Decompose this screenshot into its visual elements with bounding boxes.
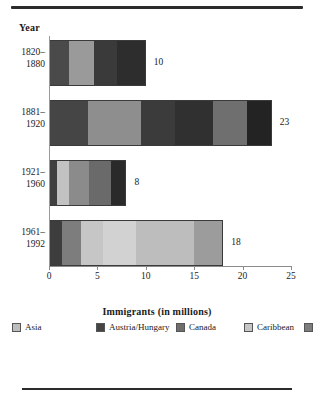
legend-item: Caribbean xyxy=(244,320,304,334)
bar-category-label: 1881–1920 xyxy=(4,106,45,130)
x-tick-label: 0 xyxy=(37,271,61,281)
stacked-bar xyxy=(49,220,223,266)
bar-segment xyxy=(50,221,62,265)
bar-total-label: 10 xyxy=(154,57,164,67)
bar-segment xyxy=(62,221,80,265)
bar-segment xyxy=(111,161,125,205)
x-tick-label: 25 xyxy=(279,271,303,281)
bar-category-label: 1820–1880 xyxy=(4,46,45,70)
bar-segment xyxy=(89,161,112,205)
legend-item: Asia xyxy=(12,320,96,334)
legend-item: Central/S. America xyxy=(304,320,314,334)
bar-segment xyxy=(69,161,89,205)
bar-total-label: 8 xyxy=(134,177,139,187)
x-tick-label: 5 xyxy=(85,271,109,281)
top-rule xyxy=(11,6,303,9)
bar-segment xyxy=(88,101,141,145)
legend-swatch-icon xyxy=(176,323,185,332)
bar-segment xyxy=(213,101,247,145)
legend-item: Canada xyxy=(176,320,244,334)
bar-segment xyxy=(57,161,69,205)
stacked-bar xyxy=(49,40,146,86)
bar-segment xyxy=(117,41,144,85)
x-tick xyxy=(194,266,195,270)
chart-legend: AsiaAustria/HungaryCanadaCaribbeanCentra… xyxy=(12,320,304,334)
legend-item: Austria/Hungary xyxy=(96,320,176,334)
figure-page: Year 1820–1880101881–1920231921–19608196… xyxy=(0,0,314,399)
bar-segment xyxy=(50,161,57,205)
legend-swatch-icon xyxy=(304,323,313,332)
legend-swatch-icon xyxy=(244,323,253,332)
plot-area: Year 1820–1880101881–1920231921–19608196… xyxy=(0,18,314,278)
bar-segment xyxy=(69,41,94,85)
bar-segment xyxy=(247,101,271,145)
stacked-bar xyxy=(49,160,126,206)
x-axis-line xyxy=(49,266,291,267)
stacked-bar xyxy=(49,100,272,146)
bar-segment xyxy=(50,41,69,85)
bottom-rule xyxy=(22,388,292,390)
bar-segment xyxy=(103,221,136,265)
legend-label: Austria/Hungary xyxy=(109,322,170,332)
x-tick xyxy=(291,266,292,270)
legend-label: Canada xyxy=(189,322,216,332)
bar-category-label: 1961–1992 xyxy=(4,226,45,250)
bar-segment xyxy=(141,101,175,145)
x-tick xyxy=(146,266,147,270)
x-axis-title: Immigrants (in millions) xyxy=(0,306,314,317)
year-axis-header: Year xyxy=(19,22,40,33)
bar-segment xyxy=(94,41,118,85)
bar-total-label: 18 xyxy=(231,237,241,247)
bar-segment xyxy=(175,101,213,145)
bar-segment xyxy=(81,221,103,265)
x-tick-label: 20 xyxy=(231,271,255,281)
bar-total-label: 23 xyxy=(280,117,290,127)
y-axis-line xyxy=(49,36,50,267)
legend-swatch-icon xyxy=(12,323,21,332)
legend-label: Caribbean xyxy=(257,322,294,332)
x-tick xyxy=(243,266,244,270)
bar-segment xyxy=(50,101,88,145)
legend-label: Asia xyxy=(25,322,42,332)
bar-segment xyxy=(194,221,223,265)
x-tick xyxy=(49,266,50,270)
legend-swatch-icon xyxy=(96,323,105,332)
x-tick xyxy=(97,266,98,270)
x-tick-label: 15 xyxy=(182,271,206,281)
x-tick-label: 10 xyxy=(134,271,158,281)
bar-category-label: 1921–1960 xyxy=(4,166,45,190)
bar-segment xyxy=(136,221,193,265)
